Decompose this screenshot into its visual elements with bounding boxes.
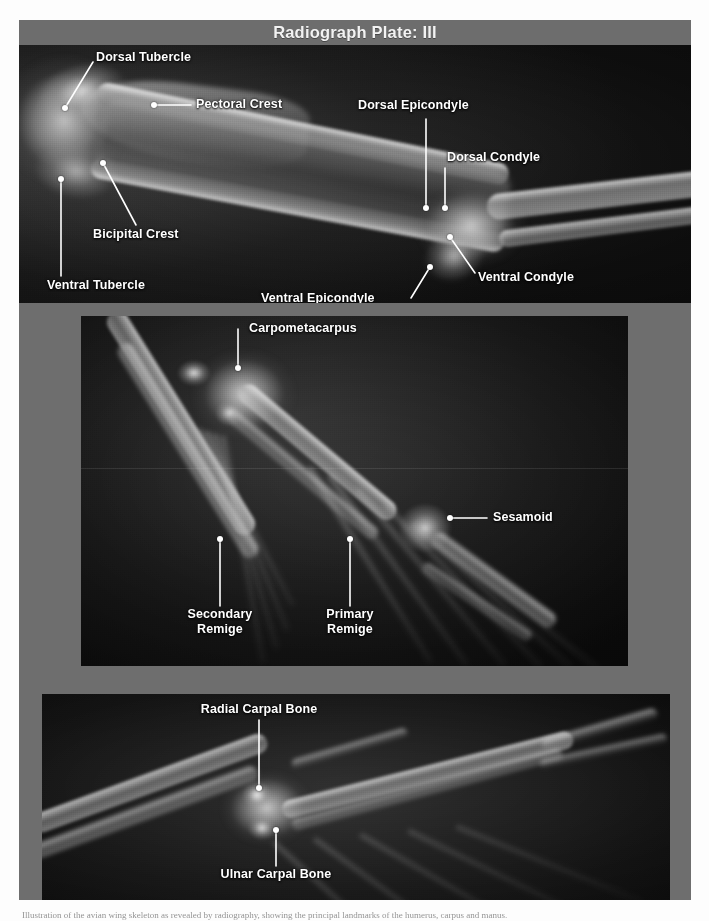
film-background (42, 694, 670, 900)
radiograph-panel-carpal-bones: Radial Carpal Bone Ulnar Carpal Bone (42, 694, 670, 900)
radiograph-panel-humerus: Dorsal Tubercle Pectoral Crest Dorsal Ep… (19, 45, 691, 303)
radiograph-panel-carpometacarpus: Carpometacarpus Sesamoid Secondary Remig… (81, 316, 628, 666)
plate-title-bar: Radiograph Plate: III (19, 20, 691, 45)
page-canvas: Radiograph Plate: III Dorsal Tubercle (0, 0, 709, 921)
page-title: Radiograph Plate: III (273, 23, 437, 42)
page-caption-sliver: Illustration of the avian wing skeleton … (22, 909, 682, 921)
film-background (19, 45, 691, 303)
film-background (81, 316, 628, 666)
